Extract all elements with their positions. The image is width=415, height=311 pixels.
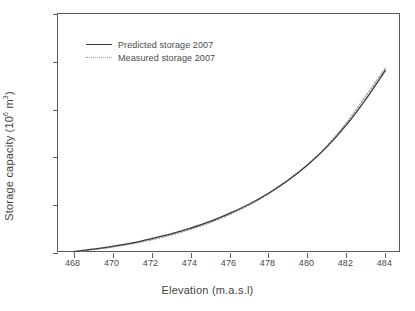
x-axis-tick-label: 470 <box>92 258 132 268</box>
chart-legend: Predicted storage 2007 Measured storage … <box>86 38 215 64</box>
x-axis-tick-label: 478 <box>247 258 287 268</box>
x-axis-tick-label: 468 <box>53 258 93 268</box>
y-axis-tick <box>53 110 58 111</box>
legend-item-label: Predicted storage 2007 <box>118 40 213 50</box>
x-axis-tick-label: 484 <box>364 258 404 268</box>
x-axis-tick-label: 474 <box>170 258 210 268</box>
legend-line-solid-icon <box>86 40 112 49</box>
y-axis-tick <box>53 14 58 15</box>
legend-line-dotted-icon <box>86 53 112 62</box>
legend-item: Predicted storage 2007 <box>86 38 215 51</box>
x-axis-tick-label: 480 <box>286 258 326 268</box>
y-axis-tick <box>53 157 58 158</box>
x-axis-title: Elevation (m.a.s.l) <box>0 284 415 296</box>
series-line-measured <box>74 68 386 252</box>
y-axis-tick <box>53 62 58 63</box>
y-axis-title: Storage capacity (106 m3) <box>0 0 20 311</box>
legend-item-label: Measured storage 2007 <box>118 53 215 63</box>
x-axis-tick-label: 482 <box>325 258 365 268</box>
x-axis-tick-label: 472 <box>131 258 171 268</box>
plot-frame: Predicted storage 2007 Measured storage … <box>57 13 400 252</box>
series-line-predicted <box>74 70 386 251</box>
y-axis-tick <box>53 253 58 254</box>
y-axis-tick <box>53 205 58 206</box>
legend-item: Measured storage 2007 <box>86 51 215 64</box>
chart-figure: Predicted storage 2007 Measured storage … <box>0 0 415 311</box>
x-axis-tick-label: 476 <box>209 258 249 268</box>
